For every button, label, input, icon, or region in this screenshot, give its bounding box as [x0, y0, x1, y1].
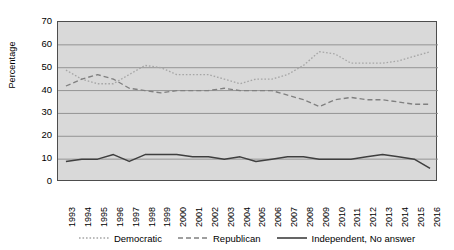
x-axis-tick: 1994 [84, 207, 93, 227]
legend-label: Republican [213, 233, 261, 244]
y-axis-tick: 0 [24, 176, 52, 186]
x-axis-tick: 2016 [433, 207, 442, 227]
x-axis-tick: 1993 [68, 207, 77, 227]
legend-item[interactable]: Democratic [79, 233, 162, 244]
x-axis-tick: 2003 [227, 207, 236, 227]
y-axis-tick-labels: 706050403020100 [24, 0, 52, 250]
x-axis-tick: 2007 [290, 207, 299, 227]
x-axis-tick: 2011 [353, 208, 362, 227]
x-axis-tick: 2015 [417, 207, 426, 227]
series-line [66, 155, 430, 169]
legend-item[interactable]: Independent, No answer [277, 233, 416, 244]
x-axis-tick: 2014 [401, 207, 410, 227]
legend-line-swatch [178, 234, 208, 242]
legend-item[interactable]: Republican [178, 233, 261, 244]
y-axis-tick: 30 [24, 107, 52, 117]
plot-area [57, 21, 437, 181]
legend-label: Independent, No answer [312, 233, 416, 244]
y-axis-tick: 50 [24, 62, 52, 72]
x-axis-tick: 1995 [100, 207, 109, 227]
line-chart: Percentage 706050403020100 1993199419951… [0, 0, 454, 250]
y-axis-tick: 40 [24, 85, 52, 95]
x-axis-tick: 2002 [211, 207, 220, 227]
chart-legend: DemocraticRepublicanIndependent, No answ… [57, 230, 437, 246]
x-axis-tick: 2000 [179, 207, 188, 227]
x-axis-tick: 2006 [274, 207, 283, 227]
x-axis-tick-labels: 1993199419951996199719981999200020012002… [57, 183, 437, 229]
y-axis-tick: 10 [24, 153, 52, 163]
x-axis-tick: 2013 [385, 207, 394, 227]
x-axis-tick: 2010 [338, 207, 347, 227]
x-axis-tick: 1996 [116, 207, 125, 227]
y-axis-tick: 70 [24, 16, 52, 26]
x-axis-tick: 1997 [132, 207, 141, 227]
legend-line-swatch [277, 234, 307, 242]
plot-svg [58, 22, 438, 182]
x-axis-tick: 2005 [258, 207, 267, 227]
y-axis-tick: 20 [24, 130, 52, 140]
x-axis-tick: 2004 [243, 207, 252, 227]
y-axis-tick: 60 [24, 39, 52, 49]
x-axis-tick: 2008 [306, 207, 315, 227]
x-axis-tick: 2009 [322, 207, 331, 227]
legend-line-swatch [79, 234, 109, 242]
x-axis-tick: 1999 [163, 207, 172, 227]
legend-label: Democratic [114, 233, 162, 244]
x-axis-tick: 2001 [195, 207, 204, 227]
y-axis-title: Percentage [7, 15, 17, 115]
x-axis-tick: 2012 [369, 207, 378, 227]
x-axis-tick: 1998 [148, 207, 157, 227]
